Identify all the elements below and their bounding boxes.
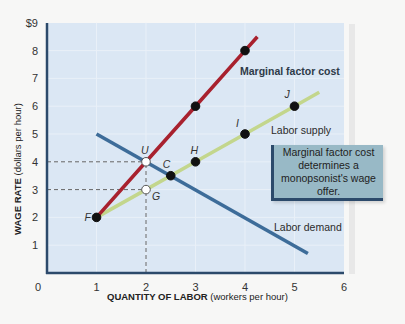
x-axis-title: QUANTITY OF LABOR (workers per hour) bbox=[107, 291, 288, 302]
point-label-u: U bbox=[141, 144, 149, 156]
y-tick-label: 8 bbox=[32, 45, 38, 57]
point-label-h: H bbox=[191, 144, 199, 156]
demand-label: Labor demand bbox=[274, 221, 342, 233]
y-tick-label: 4 bbox=[32, 156, 38, 168]
callout-text: Marginal factor cost determines a monops… bbox=[278, 146, 379, 198]
y-tick-label: 7 bbox=[32, 72, 38, 84]
point-label-i: I bbox=[236, 117, 239, 129]
point-label-f: F bbox=[85, 211, 92, 223]
point-label-j: J bbox=[284, 88, 291, 100]
y-tick-label: 5 bbox=[32, 128, 38, 140]
point-c bbox=[166, 171, 175, 180]
point-label-g: G bbox=[152, 190, 160, 202]
point-h bbox=[191, 158, 200, 167]
y-axis-title: WAGE RATE (dollars per hour) bbox=[12, 103, 23, 235]
point-i bbox=[241, 130, 250, 139]
point-j bbox=[290, 102, 299, 111]
supply-label: Labor supply bbox=[271, 124, 332, 136]
y-tick-label: 2 bbox=[32, 211, 38, 223]
y-tick-label: 6 bbox=[32, 100, 38, 112]
x-tick-label: 5 bbox=[291, 281, 297, 293]
mfc-label: Marginal factor cost bbox=[240, 65, 340, 77]
x-tick-label: 6 bbox=[341, 281, 347, 293]
point-label-c: C bbox=[163, 158, 171, 170]
point-u bbox=[142, 158, 151, 167]
point-g bbox=[142, 185, 151, 194]
y-tick-label: $9 bbox=[26, 17, 38, 29]
point-mfc bbox=[191, 102, 200, 111]
point-mfc bbox=[241, 46, 250, 55]
y-tick-label: 1 bbox=[32, 239, 38, 251]
x-tick-label: 0 bbox=[35, 281, 41, 293]
callout-box: Marginal factor cost determines a monops… bbox=[271, 145, 383, 201]
x-tick-label: 1 bbox=[93, 281, 99, 293]
point-f bbox=[92, 213, 101, 222]
y-tick-label: 3 bbox=[32, 184, 38, 196]
